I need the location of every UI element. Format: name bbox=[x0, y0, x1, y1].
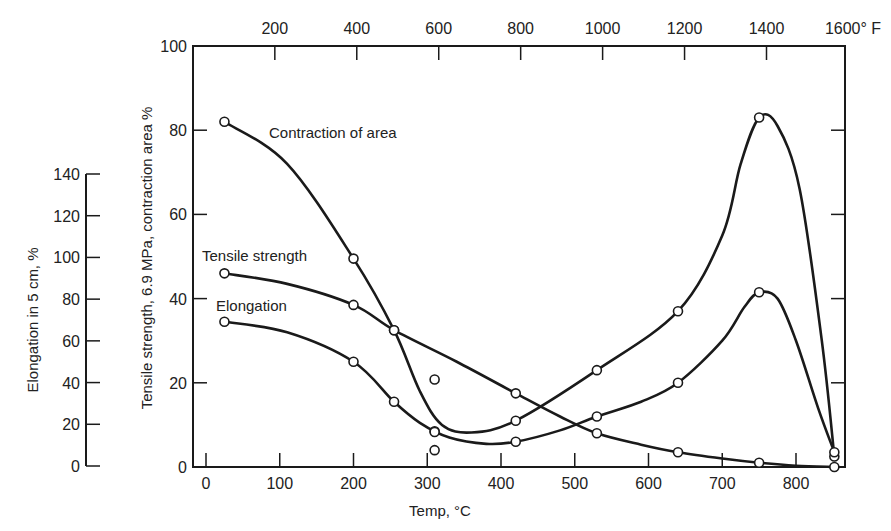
x-tick-label: 400 bbox=[488, 475, 515, 492]
data-point-tensile-strength bbox=[592, 429, 601, 438]
x-top-tick-label: 1400 bbox=[749, 20, 785, 37]
data-point-contraction-of-area bbox=[592, 366, 601, 375]
x-top-tick-label: 800 bbox=[507, 20, 534, 37]
data-point-elongation bbox=[830, 448, 839, 457]
data-point-elongation bbox=[592, 412, 601, 421]
elongation-tick-label: 80 bbox=[62, 291, 80, 308]
elongation-tick-label: 60 bbox=[62, 333, 80, 350]
label-contraction-of-area: Contraction of area bbox=[269, 124, 397, 141]
data-point-contraction-of-area bbox=[511, 416, 520, 425]
data-point-contraction-of-area bbox=[755, 113, 764, 122]
data-point-elongation bbox=[220, 317, 229, 326]
data-point-elongation bbox=[511, 437, 520, 446]
axes: 0100200300400500600700800200400600800100… bbox=[53, 20, 881, 492]
y-axis-title-elongation: Elongation in 5 cm, % bbox=[24, 247, 41, 392]
x-tick-label: 100 bbox=[266, 475, 293, 492]
chart: 0100200300400500600700800200400600800100… bbox=[0, 0, 891, 531]
x-top-tick-label: 600 bbox=[425, 20, 452, 37]
y-axis-title-tensile-contraction: Tensile strength, 6.9 MPa, contraction a… bbox=[138, 107, 155, 410]
data-point-tensile-strength bbox=[830, 463, 839, 472]
data-point-tensile-strength bbox=[674, 448, 683, 457]
elongation-tick-label: 120 bbox=[53, 208, 80, 225]
data-point-isolated bbox=[430, 375, 439, 384]
data-point-elongation bbox=[755, 288, 764, 297]
data-point-elongation bbox=[349, 357, 358, 366]
y-tick-label: 20 bbox=[169, 375, 187, 392]
data-point-contraction-of-area bbox=[220, 117, 229, 126]
data-point-elongation bbox=[430, 428, 439, 437]
y-tick-label: 100 bbox=[160, 38, 187, 55]
elongation-tick-label: 140 bbox=[53, 166, 80, 183]
data-point-tensile-strength bbox=[220, 269, 229, 278]
data-point-contraction-of-area bbox=[674, 307, 683, 316]
x-top-tick-label: 1200 bbox=[667, 20, 703, 37]
data-point-elongation bbox=[674, 378, 683, 387]
elongation-tick-label: 20 bbox=[62, 416, 80, 433]
x-top-tick-label: 200 bbox=[261, 20, 288, 37]
curve-elongation bbox=[224, 292, 834, 453]
data-point-tensile-strength bbox=[390, 326, 399, 335]
x-tick-label: 0 bbox=[202, 475, 211, 492]
curve-contraction-of-area bbox=[224, 114, 834, 456]
data-point-contraction-of-area bbox=[349, 254, 358, 263]
label-tensile-strength: Tensile strength bbox=[202, 247, 307, 264]
x-tick-label: 500 bbox=[561, 475, 588, 492]
x-tick-label: 600 bbox=[635, 475, 662, 492]
curves bbox=[224, 114, 834, 467]
data-point-tensile-strength bbox=[755, 458, 764, 467]
x-tick-label: 300 bbox=[414, 475, 441, 492]
y-tick-label: 80 bbox=[169, 122, 187, 139]
y-tick-label: 0 bbox=[178, 459, 187, 476]
elongation-tick-label: 40 bbox=[62, 375, 80, 392]
y-tick-label: 40 bbox=[169, 291, 187, 308]
data-point-tensile-strength bbox=[349, 300, 358, 309]
x-tick-label: 200 bbox=[340, 475, 367, 492]
x-tick-label: 800 bbox=[783, 475, 810, 492]
y-tick-label: 60 bbox=[169, 206, 187, 223]
data-point-tensile-strength bbox=[511, 389, 520, 398]
data-point-elongation bbox=[390, 397, 399, 406]
x-top-tick-label: 1600° F bbox=[825, 20, 881, 37]
x-tick-label: 700 bbox=[709, 475, 736, 492]
markers bbox=[220, 113, 839, 471]
data-point-isolated bbox=[430, 446, 439, 455]
x-top-tick-label: 400 bbox=[343, 20, 370, 37]
x-top-tick-label: 1000 bbox=[585, 20, 621, 37]
elongation-tick-label: 0 bbox=[71, 458, 80, 475]
x-axis-title: Temp, °C bbox=[409, 502, 471, 519]
label-elongation: Elongation bbox=[216, 297, 287, 314]
elongation-tick-label: 100 bbox=[53, 249, 80, 266]
